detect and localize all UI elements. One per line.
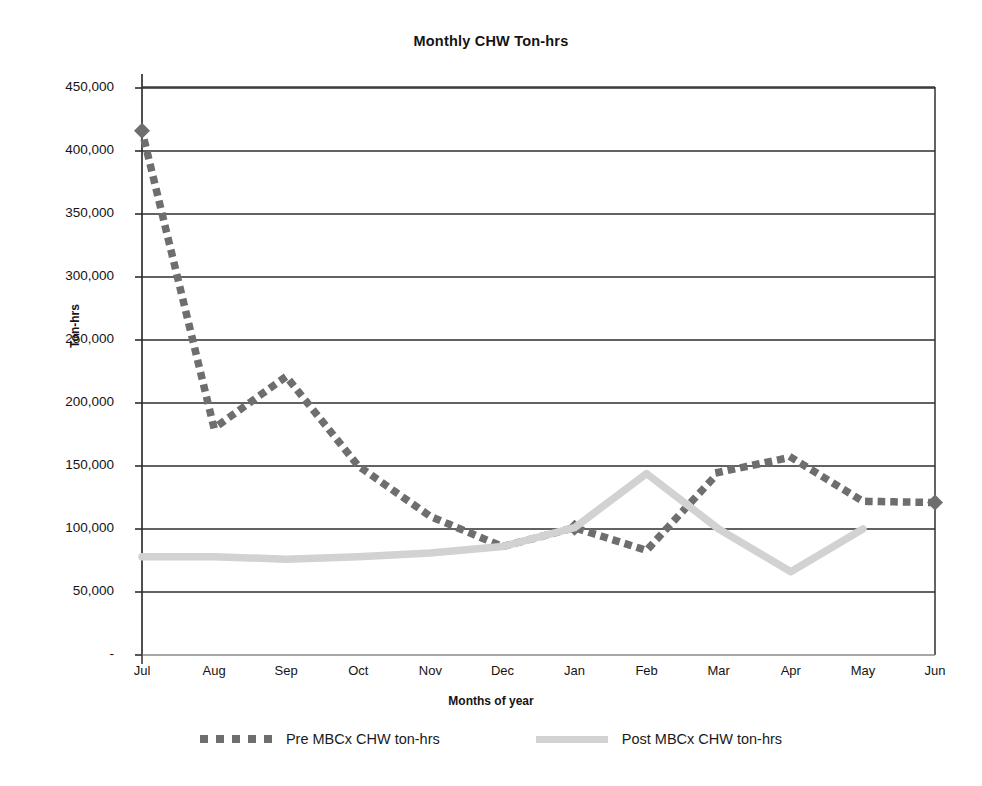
y-tick-label: 200,000 <box>18 394 114 409</box>
y-tick-label: 400,000 <box>18 142 114 157</box>
x-tick-label-jul: Jul <box>107 663 177 678</box>
data-point-marker <box>134 123 150 139</box>
x-tick-label-aug: Aug <box>179 663 249 678</box>
y-tick-label: 300,000 <box>18 268 114 283</box>
y-tick-label: 350,000 <box>18 205 114 220</box>
y-tick-label: 450,000 <box>18 79 114 94</box>
series-line-post <box>142 474 863 572</box>
x-tick-label-may: May <box>828 663 898 678</box>
y-tick-label: 50,000 <box>18 583 114 598</box>
y-tick-label: 100,000 <box>18 520 114 535</box>
data-point-marker <box>927 495 943 511</box>
y-tick-label: - <box>18 646 114 661</box>
x-tick-label-mar: Mar <box>684 663 754 678</box>
y-tick-label: 150,000 <box>18 457 114 472</box>
y-tick-label: 250,000 <box>18 331 114 346</box>
x-tick-label-dec: Dec <box>467 663 537 678</box>
legend-item-post: Post MBCx CHW ton-hrs <box>536 731 782 747</box>
x-tick-label-feb: Feb <box>612 663 682 678</box>
x-tick-label-oct: Oct <box>323 663 393 678</box>
legend-item-pre: Pre MBCx CHW ton-hrs <box>200 731 440 747</box>
legend-label-post: Post MBCx CHW ton-hrs <box>622 731 782 747</box>
x-tick-label-sep: Sep <box>251 663 321 678</box>
dotted-line-swatch-icon <box>200 735 272 743</box>
x-tick-label-apr: Apr <box>756 663 826 678</box>
legend-label-pre: Pre MBCx CHW ton-hrs <box>286 731 440 747</box>
x-tick-label-jan: Jan <box>540 663 610 678</box>
solid-line-swatch-icon <box>536 736 608 743</box>
chart-legend: Pre MBCx CHW ton-hrs Post MBCx CHW ton-h… <box>0 731 982 747</box>
x-tick-label-nov: Nov <box>395 663 465 678</box>
chart-page: Monthly CHW Ton-hrs Ton-hrs Months of ye… <box>0 0 982 786</box>
x-tick-label-jun: Jun <box>900 663 970 678</box>
